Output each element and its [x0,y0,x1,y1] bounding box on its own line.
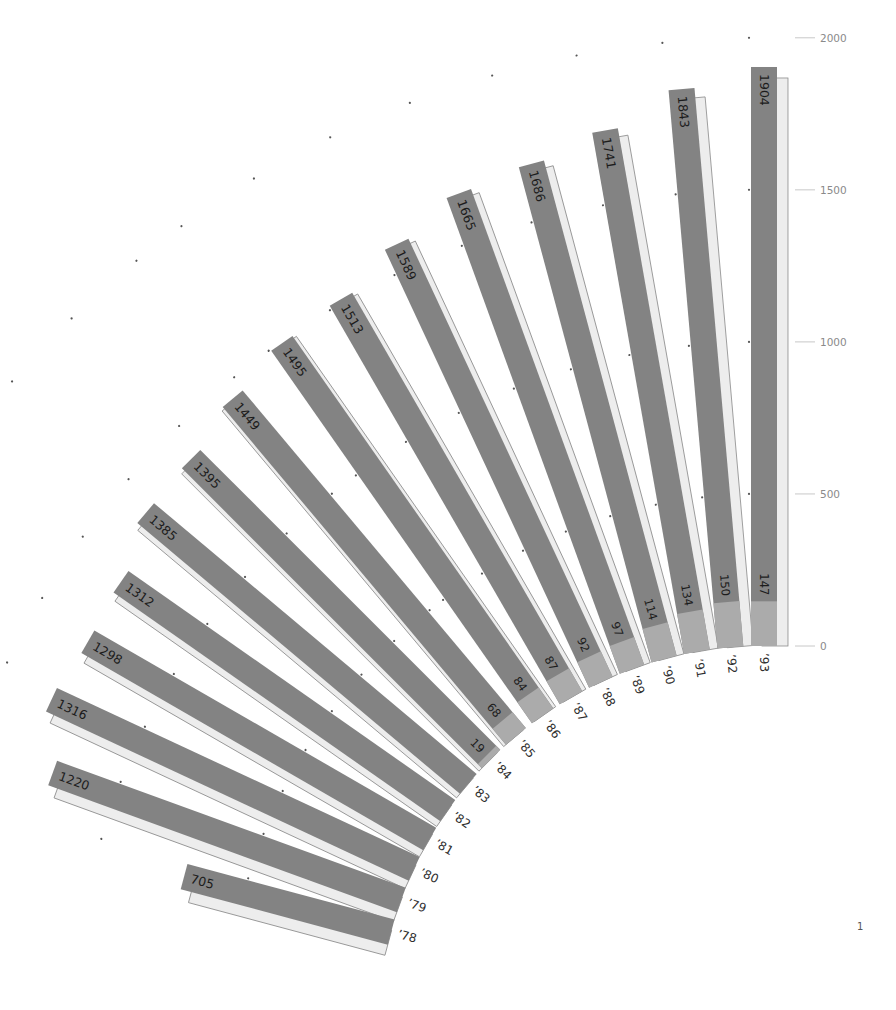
bar-group: 1471904’93 [751,67,788,672]
grid-dot [442,598,445,601]
year-label: ’85 [515,737,538,761]
grid-dot [143,725,146,728]
grid-dot [688,345,690,347]
year-label: ’86 [541,718,563,742]
year-label: ’80 [418,865,441,886]
grid-dot [285,532,288,535]
grid-dot [661,42,663,44]
grid-dot [233,376,236,379]
bar-highlight-segment [713,601,743,649]
year-label: ’78 [396,927,418,945]
grid-dot [701,496,703,498]
chart-page: 0500100015002000 681449’85841495’8619139… [0,0,896,1010]
grid-dot [329,136,332,139]
axis-tick-label: 1000 [820,336,847,348]
bars: 681449’85841495’86191395’84871513’871385… [42,67,788,962]
grid-dot [100,838,103,841]
bar-total [751,67,777,646]
grid-dot [206,622,209,625]
grid-dot [6,661,9,664]
grid-dot [393,639,396,642]
year-label: ’88 [597,686,618,709]
bar-highlight-segment [751,601,777,646]
year-label: ’90 [659,664,677,686]
year-label: ’79 [405,896,428,916]
grid-dot [10,380,13,383]
grid-dot [460,244,463,247]
grid-dot [609,515,612,518]
grid-dot [135,259,138,262]
value-axis: 0500100015002000 [795,32,847,652]
axis-tick-label: 2000 [820,32,847,44]
grid-dot [252,177,255,180]
grid-dot [393,274,396,277]
grid-dot [304,748,307,751]
highlight-value-label: 150 [717,574,733,597]
axis-tick-label: 0 [820,640,827,652]
grid-dot [172,672,175,675]
grid-dot [570,368,573,371]
year-label: ’83 [469,783,493,806]
total-value-label: 1843 [675,95,693,128]
axis-tick-label: 1500 [820,184,847,196]
grid-dot [408,101,411,104]
grid-dot [748,189,750,191]
axis-tick-label: 500 [820,488,840,500]
grid-dot [360,673,363,676]
grid-dot [564,530,567,533]
grid-dot [428,609,431,612]
year-label: ’91 [691,658,708,679]
grid-dot [247,877,250,880]
grid-dot [180,225,183,228]
grid-dot [491,74,494,77]
year-label: ’82 [450,809,474,831]
grid-dot [748,341,750,343]
grid-dot [243,575,246,578]
grid-dot [674,193,676,195]
year-label: ’93 [757,653,771,672]
grid-dot [628,354,631,357]
grid-dot [404,440,407,443]
grid-dot [748,37,750,39]
grid-dot [522,549,525,552]
total-value-label: 1904 [757,74,772,106]
grid-dot [602,204,605,207]
grid-dot [328,309,331,312]
year-label: ’92 [724,654,740,674]
year-label: ’81 [432,836,456,858]
grid-dot [127,478,130,481]
year-label: ’87 [568,700,590,724]
grid-dot [41,596,44,599]
grid-dot [178,424,181,427]
grid-dot [70,317,73,320]
grid-dot-column [0,520,307,751]
grid-dot-column [748,37,750,495]
grid-dot [575,54,578,57]
grid-dot [530,221,533,224]
grid-dot [81,535,84,538]
grid-dot [480,572,483,575]
grid-dot [262,832,265,835]
grid-dot [267,349,270,352]
grid-dot [330,710,333,713]
year-label: ’84 [491,759,514,782]
grid-dot [512,387,515,390]
grid-dot [748,493,750,495]
grid-dot [655,503,658,506]
grid-dot [330,492,333,495]
highlight-value-label: 147 [757,573,771,595]
radial-bar-chart: 0500100015002000 681449’85841495’8619139… [0,0,896,1010]
year-label: ’89 [628,673,648,696]
grid-dot [354,474,357,477]
page-number: 1 [857,921,863,932]
grid-dot [119,780,122,783]
grid-dot [457,411,460,414]
grid-dot [281,790,284,793]
